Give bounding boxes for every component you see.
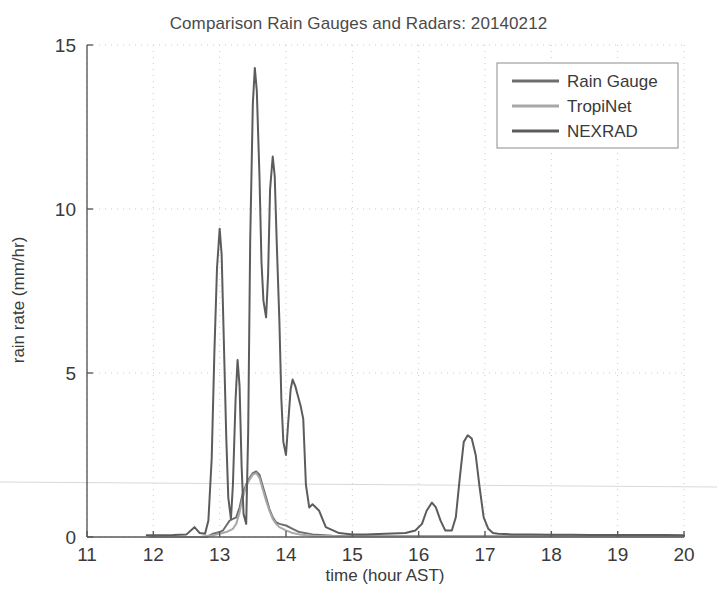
x-axis-title: time (hour AST) [325,566,444,585]
x-tick-label: 13 [209,544,230,565]
x-tick-label: 11 [77,544,97,565]
y-axis-title: rain rate (mm/hr) [9,237,28,364]
series-line-rain-gauge [150,471,684,537]
x-tick-label: 12 [143,544,164,565]
x-tick-label: 18 [541,544,562,565]
legend-label-nexrad[interactable]: NEXRAD [567,122,638,141]
y-tick-label: 10 [55,199,76,220]
x-tick-label: 15 [342,544,363,565]
x-tick-label: 14 [275,544,297,565]
x-tick-label: 19 [607,544,628,565]
legend-label-tropinet[interactable]: TropiNet [567,97,632,116]
y-tick-label: 5 [65,363,76,384]
background-scan-artifact [0,482,717,487]
y-tick-label: 15 [55,35,76,56]
x-tick-label: 16 [408,544,429,565]
x-tick-label: 20 [673,544,694,565]
chart-legend[interactable]: Rain GaugeTropiNetNEXRAD [497,63,678,148]
x-tick-label: 17 [474,544,495,565]
chart-plot: 05101511121314151617181920 time (hour AS… [0,0,717,602]
legend-label-rain-gauge[interactable]: Rain Gauge [567,72,658,91]
y-tick-label: 0 [65,527,76,548]
figure-canvas: Comparison Rain Gauges and Radars: 20140… [0,0,717,602]
